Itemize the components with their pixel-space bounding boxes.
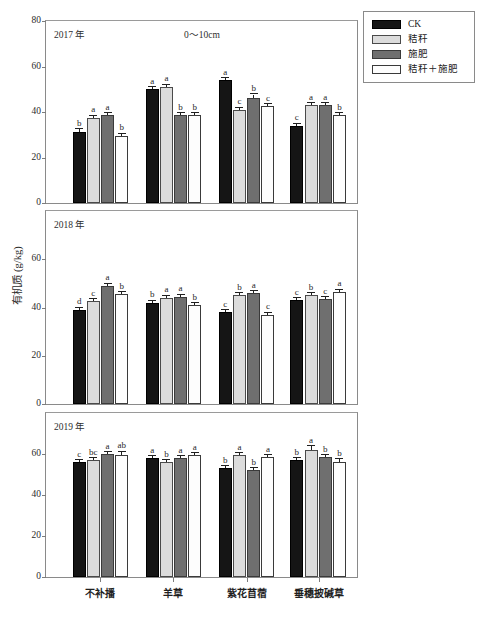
bar-both[interactable]	[115, 136, 128, 203]
bar-column[interactable]: c	[290, 21, 303, 203]
bar-column[interactable]: c	[233, 21, 246, 203]
bar-straw[interactable]	[87, 118, 100, 203]
bar-fert[interactable]	[247, 470, 260, 577]
bar-both[interactable]	[333, 462, 346, 577]
bar-column[interactable]: a	[160, 21, 173, 203]
bar-both[interactable]	[115, 294, 128, 404]
bar-column[interactable]: a	[101, 413, 114, 577]
legend-item-ck[interactable]: CK	[372, 18, 470, 31]
bar-both[interactable]	[261, 457, 274, 577]
bar-column[interactable]: c	[261, 211, 274, 404]
bar-ck[interactable]	[290, 300, 303, 404]
bar-fert[interactable]	[247, 98, 260, 203]
bar-column[interactable]: b	[188, 21, 201, 203]
bar-column[interactable]: a	[261, 413, 274, 577]
bar-both[interactable]	[261, 315, 274, 404]
bar-straw[interactable]	[233, 110, 246, 203]
bar-column[interactable]: a	[233, 413, 246, 577]
bar-column[interactable]: bc	[87, 413, 100, 577]
bar-column[interactable]: b	[247, 21, 260, 203]
bar-straw[interactable]	[305, 450, 318, 577]
y-tick-mark	[42, 356, 46, 357]
bar-column[interactable]: a	[160, 211, 173, 404]
bar-column[interactable]: ab	[115, 413, 128, 577]
bar-both[interactable]	[261, 106, 274, 203]
bar-column[interactable]: a	[319, 21, 332, 203]
bar-column[interactable]: a	[188, 413, 201, 577]
bar-ck[interactable]	[146, 458, 159, 577]
bar-column[interactable]: a	[101, 211, 114, 404]
bar-column[interactable]: b	[247, 413, 260, 577]
legend-item-straw[interactable]: 秸秆	[372, 33, 470, 46]
bar-column[interactable]: b	[219, 413, 232, 577]
y-tick-label-40: 40	[23, 303, 41, 313]
bar-column[interactable]: b	[319, 413, 332, 577]
legend-label: CK	[408, 18, 421, 31]
bar-straw[interactable]	[160, 298, 173, 404]
bar-both[interactable]	[333, 292, 346, 404]
bar-column[interactable]: b	[188, 211, 201, 404]
bar-fert[interactable]	[174, 297, 187, 404]
bar-column[interactable]: b	[305, 211, 318, 404]
bar-both[interactable]	[115, 455, 128, 577]
bar-column[interactable]: a	[87, 21, 100, 203]
panel-2017: 2017 年 0～10cm 020406080baabaabbacbccaab	[45, 20, 358, 204]
bar-fert[interactable]	[101, 454, 114, 577]
bar-fert[interactable]	[319, 457, 332, 577]
x-tick-mark	[100, 578, 101, 582]
bar-ck[interactable]	[219, 468, 232, 577]
bar-column[interactable]: a	[146, 21, 159, 203]
bar-column[interactable]: c	[261, 21, 274, 203]
bar-column[interactable]: c	[219, 211, 232, 404]
bar-column[interactable]: c	[290, 211, 303, 404]
bar-column[interactable]: c	[319, 211, 332, 404]
bar-both[interactable]	[333, 115, 346, 203]
bar-straw[interactable]	[305, 295, 318, 404]
bar-column[interactable]: d	[73, 211, 86, 404]
bar-ck[interactable]	[73, 462, 86, 577]
bar-fert[interactable]	[174, 115, 187, 203]
bar-column[interactable]: a	[174, 413, 187, 577]
bar-column[interactable]: b	[333, 413, 346, 577]
bar-column[interactable]: a	[101, 21, 114, 203]
bar-straw[interactable]	[87, 460, 100, 577]
bar-column[interactable]: a	[305, 413, 318, 577]
bar-column[interactable]: c	[87, 211, 100, 404]
bar-ck[interactable]	[219, 312, 232, 404]
bar-straw[interactable]	[87, 301, 100, 404]
bar-ck[interactable]	[73, 310, 86, 404]
bar-straw[interactable]	[305, 105, 318, 203]
bar-ck[interactable]	[290, 460, 303, 577]
bar-column[interactable]: b	[115, 211, 128, 404]
bar-ck[interactable]	[290, 126, 303, 203]
bar-both[interactable]	[188, 455, 201, 577]
bar-column[interactable]: b	[160, 413, 173, 577]
bar-column[interactable]: b	[146, 211, 159, 404]
legend-item-both[interactable]: 秸秆＋施肥	[372, 63, 470, 76]
legend-item-fert[interactable]: 施肥	[372, 48, 470, 61]
bar-fert[interactable]	[101, 286, 114, 404]
bar-both[interactable]	[188, 115, 201, 203]
bar-column[interactable]: a	[174, 211, 187, 404]
bar-column[interactable]: c	[73, 413, 86, 577]
bar-straw[interactable]	[233, 455, 246, 577]
bar-ck[interactable]	[73, 132, 86, 203]
error-bar-cap	[321, 454, 329, 455]
bar-group-4: babb	[290, 413, 346, 577]
bar-straw[interactable]	[160, 462, 173, 577]
bar-fert[interactable]	[319, 105, 332, 203]
bar-fert[interactable]	[319, 299, 332, 404]
bar-column[interactable]: a	[305, 21, 318, 203]
bar-straw[interactable]	[233, 295, 246, 404]
bar-column[interactable]: b	[174, 21, 187, 203]
bar-both[interactable]	[188, 305, 201, 404]
bar-fert[interactable]	[174, 458, 187, 577]
bar-column[interactable]: a	[146, 413, 159, 577]
bar-ck[interactable]	[146, 89, 159, 203]
bar-column[interactable]: a	[219, 21, 232, 203]
bar-column[interactable]: a	[333, 211, 346, 404]
bar-column[interactable]: b	[233, 211, 246, 404]
bar-ck[interactable]	[146, 303, 159, 404]
bar-column[interactable]: b	[333, 21, 346, 203]
bar-column[interactable]: b	[115, 21, 128, 203]
